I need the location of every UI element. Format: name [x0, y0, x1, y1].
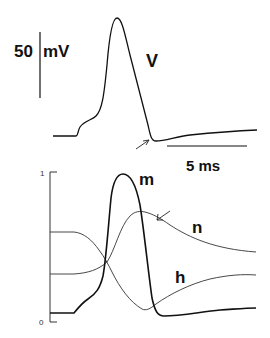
time-scale-label: 5 ms	[186, 157, 220, 174]
voltage-trace-label: V	[146, 51, 158, 71]
hodgkin-huxley-figure: 50 mV V 5 ms 1 0 h n m	[0, 0, 270, 338]
y-tick-0: 0	[39, 318, 44, 327]
h-trace-label: h	[175, 268, 185, 287]
y-axis	[50, 172, 57, 322]
voltage-trace	[53, 18, 257, 141]
voltage-scale-value: 50	[14, 42, 33, 61]
gating-panel: 1 0 h n m	[39, 169, 256, 327]
arrow-icon	[136, 140, 149, 149]
m-trace	[50, 174, 256, 316]
y-tick-1: 1	[40, 169, 45, 178]
arrow-icon	[157, 211, 170, 220]
voltage-scale-unit: mV	[43, 42, 70, 61]
h-trace	[50, 232, 256, 310]
n-trace-label: n	[192, 218, 202, 237]
voltage-panel: 50 mV V 5 ms	[14, 18, 257, 174]
m-trace-label: m	[139, 170, 154, 189]
n-trace	[50, 211, 256, 274]
